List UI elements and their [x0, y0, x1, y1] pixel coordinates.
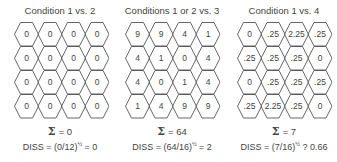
hexagon-value: 0	[85, 100, 109, 112]
condition-panel-2: Conditions 1 or 2 vs. 3 9941410440141499…	[116, 0, 228, 162]
hexagon-value: 0	[38, 28, 62, 40]
hexagon-value: 4	[149, 100, 173, 112]
hexagon-value: .25	[308, 28, 332, 40]
hexagon-value: 0	[62, 100, 86, 112]
hexagon-value: .25	[308, 76, 332, 88]
hexagon-value: .25	[285, 52, 309, 64]
hexagon-value: 4	[173, 28, 197, 40]
panel-title: Condition 1 vs. 2	[4, 5, 116, 16]
hexagon-value: 1	[126, 100, 150, 112]
hexagon-value: 0	[15, 76, 39, 88]
hexagon-grid: 0000000000000000	[14, 22, 109, 119]
hexagon-value: 0	[308, 100, 332, 112]
hexagon-value: 0	[62, 76, 86, 88]
hexagon-value: 0	[15, 100, 39, 112]
hexagon-value: 0	[15, 28, 39, 40]
diss-formula: DISS = (0/12)½ = 0	[4, 141, 116, 152]
hexagon-value: 9	[196, 100, 220, 112]
hexagon-value: 0	[238, 28, 262, 40]
panel-title: Condition 1 vs. 4	[228, 5, 337, 16]
sigma-icon: Σ	[157, 125, 165, 138]
hexagon-value: 0	[38, 52, 62, 64]
hexagon-value: 9	[173, 100, 197, 112]
hexagon-value: 9	[149, 28, 173, 40]
hexagon-value: 0	[238, 76, 262, 88]
hexagon-value: 0	[62, 52, 86, 64]
diss-formula: DISS = (7/16)½ ? 0.66	[228, 141, 337, 152]
diss-result: = 2	[197, 142, 212, 152]
sum-line: Σ= 64	[116, 125, 228, 138]
sum-value: = 64	[168, 126, 187, 137]
condition-panel-3: Condition 1 vs. 4 0.252.25.25.25.25.2500…	[228, 0, 337, 162]
sigma-icon: Σ	[272, 125, 280, 138]
sum-value: = 7	[283, 126, 296, 137]
diss-formula: DISS = (64/16)½ = 2	[116, 141, 228, 152]
hexagon-value: 1	[196, 28, 220, 40]
hexagon-value: .25	[261, 76, 285, 88]
sum-value: = 0	[59, 126, 72, 137]
diss-prefix: DISS = (64/16)	[132, 142, 192, 152]
hexagon-value: 0	[173, 52, 197, 64]
panel-title: Conditions 1 or 2 vs. 3	[116, 5, 228, 16]
hexagon-value: 4	[196, 76, 220, 88]
hexagon-value: 4	[126, 76, 150, 88]
condition-panel-1: Condition 1 vs. 2 0000000000000000 Σ= 0 …	[4, 0, 116, 162]
sum-line: Σ= 7	[228, 125, 337, 138]
hexagon-value: 0	[149, 76, 173, 88]
hexagon-grid: 0.252.25.25.25.25.2500.25.25.25.252.25.2…	[237, 22, 332, 119]
hexagon-value: 0	[308, 52, 332, 64]
hexagon-value: 0	[15, 52, 39, 64]
hexagon-value: 4	[126, 52, 150, 64]
sigma-icon: Σ	[48, 125, 56, 138]
hexagon-value: .25	[238, 100, 262, 112]
hexagon-value: 1	[149, 52, 173, 64]
hexagon-value: 0	[85, 28, 109, 40]
diss-prefix: DISS = (7/16)	[241, 142, 296, 152]
hexagon-value: .25	[285, 100, 309, 112]
hexagon-value: 0	[38, 100, 62, 112]
hexagon-value: 2.25	[285, 28, 309, 40]
hexagon-value: 2.25	[261, 100, 285, 112]
hexagon-value: .25	[238, 52, 262, 64]
hexagon-value: .25	[261, 28, 285, 40]
hexagon-value: 0	[85, 52, 109, 64]
hexagon-grid: 9941410440141499	[125, 22, 220, 119]
sum-line: Σ= 0	[4, 125, 116, 138]
hexagon-value: 1	[173, 76, 197, 88]
hexagon-value: 0	[85, 76, 109, 88]
hexagon-value: .25	[285, 76, 309, 88]
hexagon-value: 4	[196, 52, 220, 64]
hexagon-value: 9	[126, 28, 150, 40]
diss-result: = 0	[82, 142, 97, 152]
hexagon-value: .25	[261, 52, 285, 64]
diss-prefix: DISS = (0/12)	[23, 142, 78, 152]
hexagon-value: 0	[62, 28, 86, 40]
diss-result: ? 0.66	[300, 142, 328, 152]
hexagon-value: 0	[38, 76, 62, 88]
